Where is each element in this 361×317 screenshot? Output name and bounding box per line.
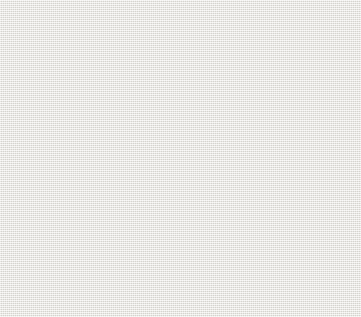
legend-label: 2012 [296,194,317,204]
bar-group [139,201,354,226]
horizontal-bar-chart: % 0510152025303540 eat low fat versions … [0,0,361,317]
x-axis-tick-30: 30 [288,10,299,21]
bar-2012[interactable] [139,54,334,62]
bar-2006[interactable] [139,62,334,70]
bar-2006[interactable] [139,263,184,271]
x-axis-tick-0: 0 [135,10,140,21]
x-axis-tick-10: 10 [184,10,195,21]
bar-2012[interactable] [139,204,228,212]
bar-2006[interactable] [139,213,234,221]
category-label: eat low fat versions of food [1,27,133,48]
bar-group [139,176,354,201]
bar-2006[interactable] [139,37,319,45]
bar-2006[interactable] [139,188,235,196]
bar-2012[interactable] [139,129,292,137]
category-label: I don't do anything because my lifestyle… [1,253,133,274]
category-label: I am not interested [1,283,133,294]
bar-2006[interactable] [139,113,346,121]
bar-2012[interactable] [139,29,346,37]
chart-rows: eat low fat versions of foodTake more ex… [0,25,361,301]
bar-2006[interactable] [139,238,207,246]
legend-swatch-icon [283,210,291,218]
chart-row: Eat 5 portions of fruit and vegetables [0,75,361,100]
category-label: Take more exercise [1,57,133,68]
bar-2012[interactable] [139,229,203,237]
bar-group [139,75,354,100]
bar-2006[interactable] [139,88,313,96]
bar-2012[interactable] [139,279,196,287]
chart-row: eat low fat versions of food [0,25,361,50]
x-axis-tick-labels: 0510152025303540 [0,10,361,24]
bar-2012[interactable] [139,254,199,262]
bar-2006[interactable] [139,163,232,171]
bar-group [139,150,354,175]
bar-2012[interactable] [139,79,326,87]
x-axis-tick-40: 40 [340,10,351,21]
x-axis-tick-25: 25 [262,10,273,21]
bar-2012[interactable] [139,154,243,162]
bar-group [139,50,354,75]
bar-2012[interactable] [139,179,235,187]
bar-group [139,251,354,276]
category-label: Eat calorie-controlled foods [1,233,133,244]
x-axis-tick-35: 35 [314,10,325,21]
chart-row: I don't do anything because my lifestyle… [0,251,361,276]
legend-label: 2006 [296,209,317,219]
legend-item-2006[interactable]: 2006 [283,207,317,220]
chart-row: Cut down my salt intake [0,150,361,175]
x-axis-tick-5: 5 [161,10,166,21]
chart-legend: 20122006 [283,192,317,222]
category-label: Eat 5 portions of fruit and vegetables [1,77,133,98]
chart-row: Eat calorie-controlled foods [0,226,361,251]
bar-group [139,100,354,125]
bar-2012[interactable] [139,104,311,112]
chart-row: Eat less sugar [0,125,361,150]
chart-row: Take more exercise [0,50,361,75]
category-label: Cut down my salt intake [1,158,133,169]
bar-group [139,276,354,301]
x-axis-tick-15: 15 [210,10,221,21]
bar-2006[interactable] [139,138,291,146]
legend-item-2012[interactable]: 2012 [283,192,317,205]
bar-2006[interactable] [139,288,181,296]
category-label: Drink more water [1,108,133,119]
category-label: Eat fast food [1,183,133,194]
bar-group [139,125,354,150]
x-axis-tick-20: 20 [236,10,247,21]
chart-row: I am not interested [0,276,361,301]
bar-group [139,226,354,251]
legend-swatch-icon [283,195,291,203]
chart-row: Drink more water [0,100,361,125]
category-label: Eat less sugar [1,133,133,144]
bar-group [139,25,354,50]
category-label: Eat foods with more fibre [1,208,133,219]
